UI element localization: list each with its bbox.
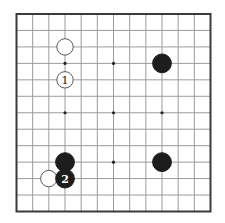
- star-point: [112, 161, 115, 164]
- star-point: [112, 111, 115, 114]
- black-stone[interactable]: [153, 54, 172, 73]
- black-stone[interactable]: [153, 153, 172, 172]
- star-point: [63, 62, 66, 65]
- go-diagram: 12: [0, 0, 225, 223]
- white-stone[interactable]: [41, 170, 57, 186]
- go-board[interactable]: 12: [0, 0, 225, 223]
- star-point: [160, 111, 163, 114]
- stone-label: 1: [62, 74, 69, 87]
- board-background: [0, 0, 225, 223]
- stone-label: 2: [61, 173, 69, 186]
- white-stone[interactable]: [57, 39, 73, 55]
- star-point: [112, 62, 115, 65]
- star-point: [63, 111, 66, 114]
